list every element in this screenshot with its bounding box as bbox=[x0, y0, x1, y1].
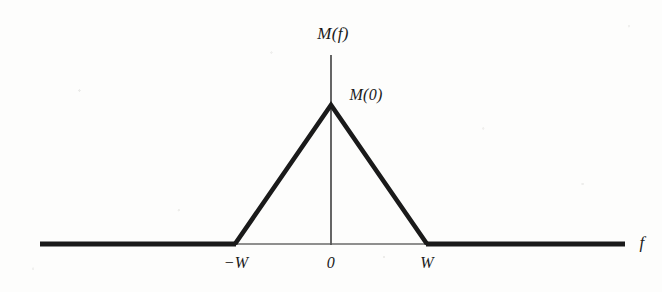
x-tick-label-positive-w: W bbox=[420, 255, 434, 271]
y-axis-label: M(f) bbox=[317, 25, 348, 42]
peak-value-label: M(0) bbox=[349, 87, 382, 103]
x-tick-label-origin: 0 bbox=[327, 255, 335, 271]
figure-container: M(f) M(0) −W 0 W f bbox=[0, 0, 662, 292]
spectrum-plot bbox=[0, 0, 662, 292]
x-axis-label: f bbox=[639, 234, 644, 251]
x-tick-label-negative-w: −W bbox=[224, 255, 249, 271]
